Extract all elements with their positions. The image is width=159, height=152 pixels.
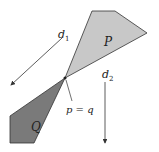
label-d2: d2	[102, 68, 114, 83]
label-d1: d1	[58, 28, 70, 43]
diagram-canvas: P Q d1 d2 p = q	[0, 0, 159, 152]
arrow-d1	[11, 38, 62, 85]
label-p-equals-q: p = q	[66, 104, 94, 115]
label-p: P	[103, 35, 113, 49]
point-pointer-line	[66, 80, 72, 101]
label-q: Q	[31, 120, 41, 134]
intersection-point	[64, 77, 67, 80]
